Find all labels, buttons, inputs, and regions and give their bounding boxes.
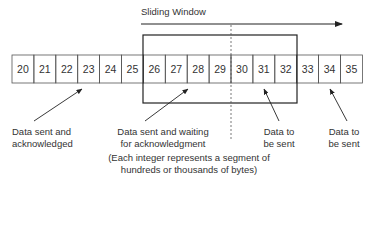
label-tosend-1-line1: Data to [260, 126, 298, 138]
arrow-tosend-1 [264, 89, 279, 121]
segment-number: 30 [236, 63, 248, 75]
arrow-acked [34, 89, 82, 121]
label-acked: Data sent and acknowledged [12, 126, 73, 150]
label-waiting: Data sent and waiting for acknowledgment [112, 126, 214, 150]
segment-number: 33 [302, 63, 314, 75]
segment-number: 20 [17, 63, 29, 75]
arrow-waiting [145, 89, 188, 121]
segment-number: 23 [83, 63, 95, 75]
segment-note-line2: hundreds or thousands of bytes) [96, 164, 282, 176]
segment-number: 31 [258, 63, 270, 75]
segment-number: 21 [39, 63, 51, 75]
segment-number: 29 [214, 63, 226, 75]
label-tosend-1: Data to be sent [260, 126, 298, 150]
arrow-tosend-2 [330, 89, 347, 121]
segment-note-line1: (Each integer represents a segment of [96, 152, 282, 164]
segment-number: 24 [105, 63, 117, 75]
segment-number: 28 [192, 63, 204, 75]
segment-note: (Each integer represents a segment of hu… [96, 152, 282, 176]
segment-number: 22 [61, 63, 73, 75]
segment-number: 27 [170, 63, 182, 75]
segment-row: 20212223242526272829303132333435 [12, 55, 362, 83]
segment-number: 26 [149, 63, 161, 75]
segment-number: 32 [280, 63, 292, 75]
label-waiting-line1: Data sent and waiting [112, 126, 214, 138]
label-tosend-2: Data to be sent [325, 126, 363, 150]
segment-number: 35 [346, 63, 358, 75]
segment-number: 34 [324, 63, 336, 75]
label-acked-line1: Data sent and [12, 126, 73, 138]
segment-number: 25 [127, 63, 139, 75]
label-acked-line2: acknowledged [12, 138, 73, 150]
label-waiting-line2: for acknowledgment [112, 138, 214, 150]
label-tosend-2-line2: be sent [325, 138, 363, 150]
label-tosend-2-line1: Data to [325, 126, 363, 138]
label-tosend-1-line2: be sent [260, 138, 298, 150]
